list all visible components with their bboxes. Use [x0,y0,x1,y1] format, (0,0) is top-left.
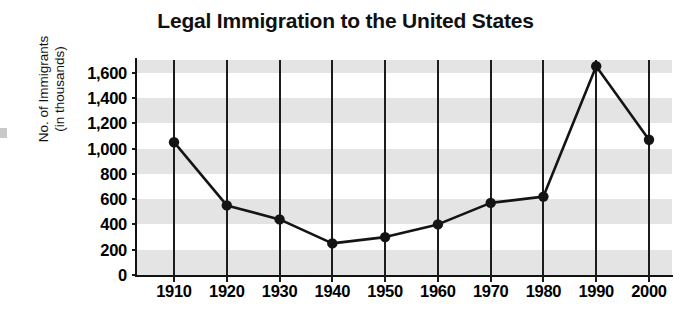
data-point-marker [538,191,548,201]
data-point-marker [644,135,654,145]
edge-artifact [0,128,7,138]
x-axis-tick-label: 1960 [420,283,456,300]
data-point-marker [169,137,179,147]
data-point-marker [274,214,284,224]
series-line [174,66,649,243]
x-axis-tick-label: 1980 [526,283,562,300]
x-axis-tick-mark [331,275,333,282]
data-point-marker [591,61,601,71]
x-axis-tick-label: 1990 [578,283,614,300]
x-axis-tick-mark [490,275,492,282]
x-axis-tick-label: 1970 [473,283,509,300]
x-axis-tick-label: 2000 [631,283,667,300]
data-point-marker [433,219,443,229]
x-axis-tick-label: 1940 [315,283,351,300]
data-point-marker [486,198,496,208]
x-axis-tick-mark [542,275,544,282]
x-axis-tick-label: 1950 [367,283,403,300]
x-axis-tick-label: 1930 [262,283,298,300]
data-series-layer [0,0,691,315]
data-point-marker [222,200,232,210]
x-axis-tick-mark [279,275,281,282]
x-axis-tick-mark [595,275,597,282]
data-point-marker [380,232,390,242]
data-point-marker [327,238,337,248]
x-axis-tick-mark [384,275,386,282]
line-chart-figure: Legal Immigration to the United States N… [0,0,691,315]
x-axis-tick-mark [226,275,228,282]
x-axis-tick-labels: 1910192019301940195019601970198019902000 [0,283,691,309]
x-axis-tick-mark [173,275,175,282]
x-axis-tick-mark [437,275,439,282]
x-axis-tick-label: 1910 [156,283,192,300]
x-axis-tick-mark [648,275,650,282]
x-axis-tick-label: 1920 [209,283,245,300]
